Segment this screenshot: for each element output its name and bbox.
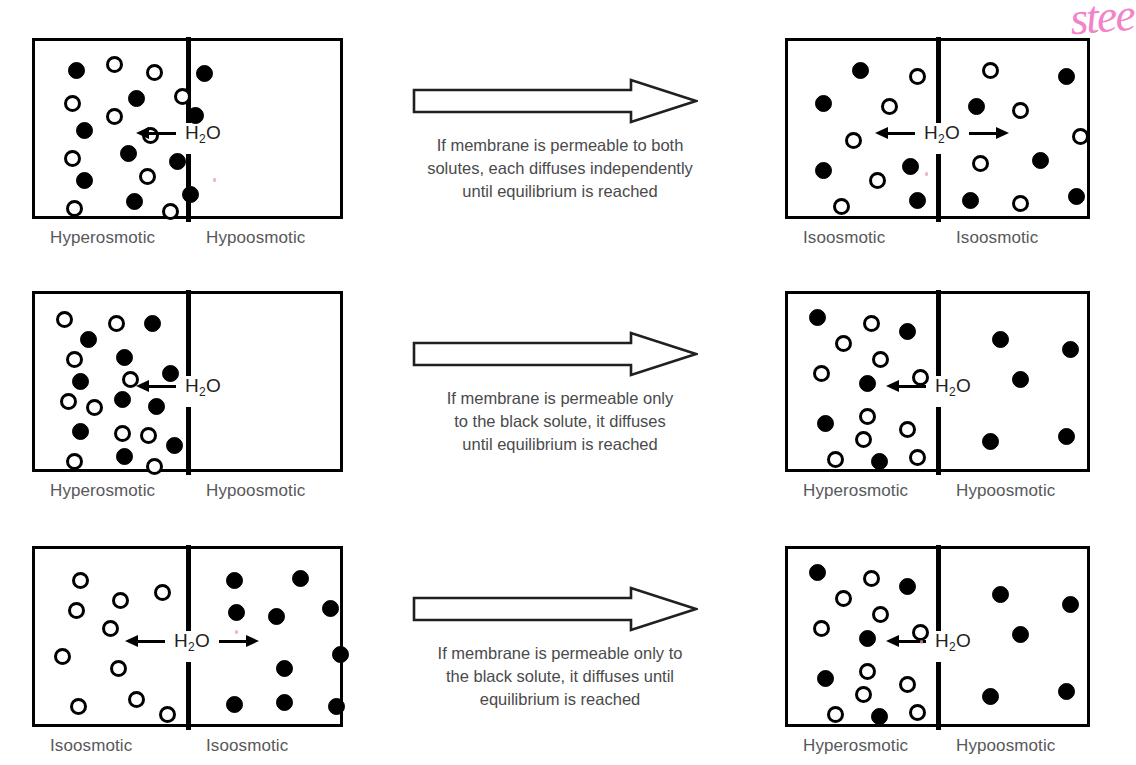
row-permeable-black-only-2: H2OIsoosmoticIsoosmoticIf membrane is pe… — [0, 508, 1136, 763]
membrane-divider-upper — [936, 290, 941, 376]
white-solute-particle — [982, 62, 999, 79]
white-solute-particle — [66, 351, 83, 368]
black-solute-particle — [126, 193, 143, 210]
process-caption: If membrane is permeable to bothsolutes,… — [390, 134, 730, 203]
process-caption-line: until equilibrium is reached — [390, 433, 730, 456]
white-solute-particle — [122, 371, 139, 388]
white-solute-particle — [859, 663, 876, 680]
process-arrow — [412, 331, 698, 377]
black-solute-particle — [1012, 371, 1029, 388]
black-solute-particle — [809, 309, 826, 326]
panel-after: H2OHyperosmoticHypoosmotic — [785, 546, 1090, 727]
process-caption-line: until equilibrium is reached — [390, 180, 730, 203]
white-solute-particle — [863, 570, 880, 587]
process-caption: If membrane is permeable only tothe blac… — [390, 642, 730, 711]
black-solute-particle — [322, 600, 339, 617]
black-solute-particle — [815, 162, 832, 179]
white-solute-particle — [1012, 195, 1029, 212]
compartment-label-right: Hypoosmotic — [206, 228, 305, 248]
white-solute-particle — [881, 98, 898, 115]
compartment-label-right: Hypoosmotic — [956, 736, 1055, 756]
white-solute-particle — [140, 427, 157, 444]
black-solute-particle — [187, 107, 204, 124]
black-solute-particle — [1032, 152, 1049, 169]
black-solute-particle — [899, 323, 916, 340]
membrane-divider-lower — [936, 154, 941, 222]
process-description: If membrane is permeable to bothsolutes,… — [390, 0, 730, 255]
osmosis-diagram: H2OHyperosmoticHypoosmoticIf membrane is… — [0, 0, 1136, 765]
black-solute-particle — [1058, 68, 1075, 85]
white-solute-particle — [146, 64, 163, 81]
white-solute-particle — [174, 88, 191, 105]
white-solute-particle — [56, 311, 73, 328]
compartment-label-left: Hyperosmotic — [50, 481, 155, 501]
white-solute-particle — [909, 449, 926, 466]
black-solute-particle — [815, 95, 832, 112]
compartment-label-left: Isoosmotic — [803, 228, 885, 248]
white-solute-particle — [106, 108, 123, 125]
black-solute-particle — [228, 604, 245, 621]
black-solute-particle — [909, 192, 926, 209]
white-solute-particle — [899, 421, 916, 438]
white-solute-particle — [154, 584, 171, 601]
black-solute-particle — [276, 660, 293, 677]
black-solute-particle — [871, 708, 888, 725]
black-solute-particle — [116, 448, 133, 465]
white-solute-particle — [54, 648, 71, 665]
compartment-label-right: Isoosmotic — [206, 736, 288, 756]
black-solute-particle — [962, 192, 979, 209]
process-caption-line: equilibrium is reached — [390, 688, 730, 711]
process-description: If membrane is permeable only tothe blac… — [390, 508, 730, 763]
process-caption-line: If membrane is permeable to both — [390, 134, 730, 157]
process-caption-line: the black solute, it diffuses until — [390, 665, 730, 688]
black-solute-particle — [226, 696, 243, 713]
panel-before: H2OHyperosmoticHypoosmotic — [32, 38, 343, 219]
white-solute-particle — [845, 132, 862, 149]
white-solute-particle — [827, 706, 844, 723]
membrane-divider-upper — [936, 37, 941, 123]
compartment-label-right: Hypoosmotic — [956, 481, 1055, 501]
black-solute-particle — [992, 586, 1009, 603]
black-solute-particle — [76, 122, 93, 139]
black-solute-particle — [859, 375, 876, 392]
white-solute-particle — [855, 686, 872, 703]
black-solute-particle — [1012, 626, 1029, 643]
black-solute-particle — [992, 331, 1009, 348]
black-solute-particle — [68, 62, 85, 79]
white-solute-particle — [909, 68, 926, 85]
white-solute-particle — [114, 425, 131, 442]
black-solute-particle — [120, 145, 137, 162]
white-solute-particle — [70, 698, 87, 715]
white-solute-particle — [972, 155, 989, 172]
white-solute-particle — [859, 408, 876, 425]
black-solute-particle — [72, 373, 89, 390]
process-caption-line: to the black solute, it diffuses — [390, 410, 730, 433]
black-solute-particle — [328, 698, 345, 715]
process-arrow — [412, 586, 698, 632]
black-solute-particle — [80, 331, 97, 348]
white-solute-particle — [128, 691, 145, 708]
white-solute-particle — [835, 335, 852, 352]
black-solute-particle — [76, 172, 93, 189]
process-caption: If membrane is permeable onlyto the blac… — [390, 387, 730, 456]
panel-before: H2OIsoosmoticIsoosmotic — [32, 546, 343, 727]
black-solute-particle — [982, 433, 999, 450]
membrane-divider-lower — [186, 662, 191, 730]
white-solute-particle — [86, 399, 103, 416]
white-solute-particle — [139, 168, 156, 185]
scan-speck — [213, 178, 216, 182]
black-solute-particle — [182, 186, 199, 203]
white-solute-particle — [68, 602, 85, 619]
white-solute-particle — [813, 365, 830, 382]
membrane-divider-lower — [936, 407, 941, 475]
white-solute-particle — [159, 706, 176, 723]
white-solute-particle — [162, 203, 179, 220]
white-solute-particle — [863, 315, 880, 332]
white-solute-particle — [912, 624, 929, 641]
black-solute-particle — [852, 62, 869, 79]
process-caption-line: If membrane is permeable only to — [390, 642, 730, 665]
black-solute-particle — [144, 315, 161, 332]
white-solute-particle — [1072, 128, 1089, 145]
black-solute-particle — [871, 453, 888, 470]
white-solute-particle — [872, 606, 889, 623]
